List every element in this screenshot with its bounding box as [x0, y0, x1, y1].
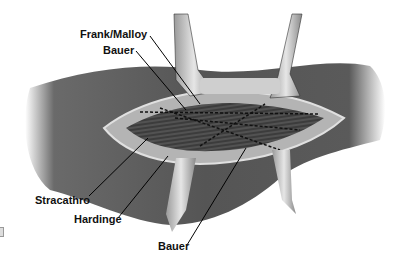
incision-illustration: [0, 0, 415, 273]
edge-marker: [0, 227, 4, 237]
label-stracathro: Stracathro: [35, 194, 90, 206]
label-bauer-top: Bauer: [103, 44, 134, 56]
label-frank-malloy: Frank/Malloy: [80, 28, 147, 40]
label-hardinge: Hardinge: [74, 213, 122, 225]
surgical-diagram: Frank/Malloy Bauer Stracathro Hardinge B…: [0, 0, 415, 273]
retractor-bridge: [200, 78, 280, 94]
label-bauer-bottom: Bauer: [158, 240, 189, 252]
